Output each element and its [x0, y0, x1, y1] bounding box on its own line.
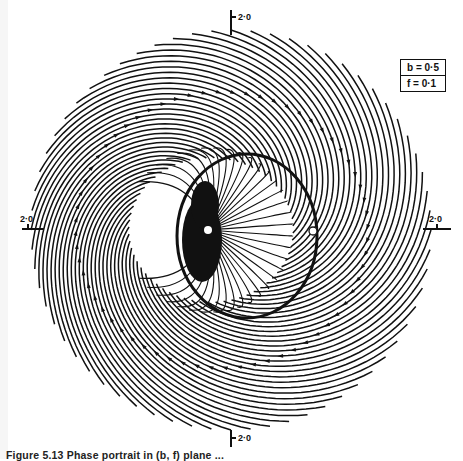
flow-arrow [334, 312, 340, 317]
flow-arrow [74, 217, 78, 223]
flow-arrow [314, 332, 320, 336]
flow-arrow [309, 119, 314, 125]
axis-label-top: 2·0 [238, 12, 251, 22]
flow-arrow [353, 172, 357, 178]
flow-arrow [208, 366, 214, 370]
figure-caption: Figure 5.13 Phase portrait in (b, f) pla… [6, 449, 224, 461]
flow-arrow [78, 257, 82, 263]
flow-arrow [236, 365, 242, 369]
flow-arrow [101, 306, 105, 312]
flow-arrow [135, 116, 141, 120]
streamline [247, 45, 372, 296]
dark-core-upper [191, 181, 219, 229]
stable-fixed-point [204, 226, 212, 234]
streamlines [31, 30, 431, 430]
flow-arrow [194, 364, 200, 368]
flow-arrow [277, 354, 283, 358]
flow-arrow [74, 230, 78, 236]
flow-arrow [302, 340, 308, 344]
legend-b: b = 0·5 [401, 60, 445, 75]
flow-arrow [330, 137, 334, 143]
flow-arrow [113, 133, 119, 137]
flow-arrow [216, 90, 222, 94]
axis-label-left: 2·0 [20, 214, 33, 224]
flow-arrow [201, 91, 207, 95]
saddle-fixed-point [309, 227, 317, 235]
flow-arrow [119, 327, 124, 333]
flow-arrow [365, 211, 369, 217]
flow-arrow [94, 295, 98, 301]
flow-arrow [324, 322, 330, 326]
flow-arrow [339, 148, 343, 154]
flow-arrow [174, 97, 180, 101]
flow-arrow [222, 367, 228, 371]
legend-f: f = 0·1 [401, 75, 445, 91]
flow-arrow [366, 224, 370, 230]
flow-arrow [230, 90, 236, 94]
streamline [126, 241, 386, 388]
flow-arrow [124, 124, 130, 128]
flow-arrow [264, 359, 270, 363]
flow-arrow [110, 317, 114, 323]
axis-label-right: 2·0 [429, 214, 442, 224]
flow-arrow [359, 185, 363, 191]
flow-arrow [160, 102, 166, 106]
flow-arrow [320, 127, 324, 133]
flow-arrow [75, 203, 79, 209]
parameter-legend: b = 0·5 f = 0·1 [400, 59, 446, 92]
axis-label-bottom: 2·0 [238, 433, 251, 443]
flow-arrow [366, 237, 370, 243]
